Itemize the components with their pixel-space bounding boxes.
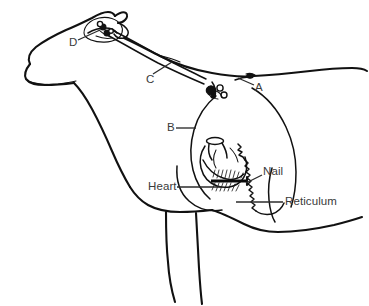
label-nail: Nail xyxy=(263,166,283,178)
leader-d xyxy=(78,30,100,40)
pulmonary-trunk xyxy=(209,144,212,160)
label-a: A xyxy=(255,82,263,94)
label-heart: Heart xyxy=(148,181,177,193)
cow-foreleg-front xyxy=(166,212,175,302)
aortic-arch xyxy=(222,143,227,158)
neck-structure-lower xyxy=(109,36,204,84)
label-b: B xyxy=(167,122,175,134)
cow-back-line xyxy=(254,68,352,76)
mid-node-cluster xyxy=(206,82,227,99)
reticulum-wall-upper xyxy=(238,144,245,160)
vena-cava xyxy=(230,148,238,162)
cow-anatomy-drawing xyxy=(0,0,369,306)
cow-throat-line xyxy=(74,83,130,187)
chest-cavity-floor xyxy=(177,166,222,211)
cow-belly-line xyxy=(212,210,362,232)
head-node-cluster xyxy=(88,21,117,38)
withers-node xyxy=(247,74,253,78)
label-d: D xyxy=(69,37,77,49)
leader-a xyxy=(238,78,254,85)
cow-jaw-line xyxy=(25,64,74,85)
coronary-groove xyxy=(214,150,216,168)
cow-hindquarter-line xyxy=(352,68,367,71)
label-c: C xyxy=(146,74,154,86)
pericardium-hatching xyxy=(213,170,243,178)
ribcage-inner-curve xyxy=(252,88,296,207)
label-reticulum: Reticulum xyxy=(285,196,337,208)
cow-foreleg-back xyxy=(196,213,202,304)
figure-canvas: D C A B Heart Nail Reticulum xyxy=(0,0,369,306)
